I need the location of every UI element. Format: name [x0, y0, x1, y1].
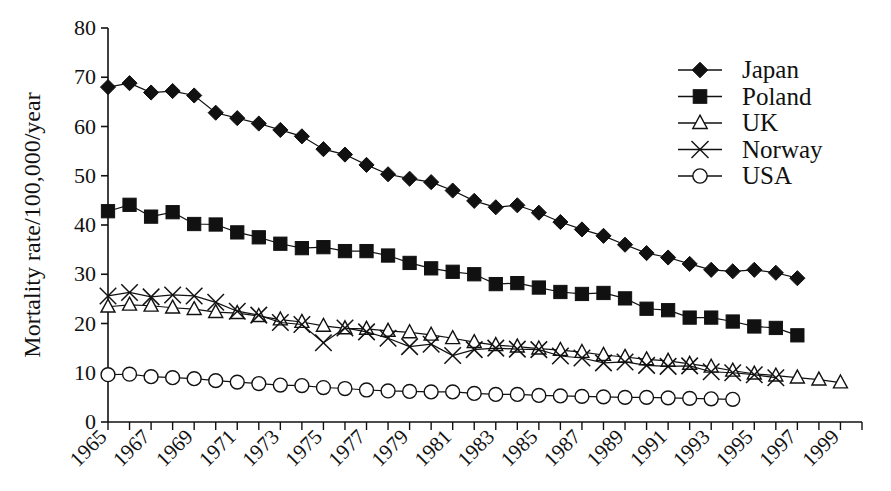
data-point-marker [360, 383, 374, 397]
y-tick-label: 80 [74, 15, 96, 40]
data-point-marker [209, 218, 222, 231]
data-point-marker [693, 90, 707, 104]
y-tick-label: 20 [74, 311, 96, 336]
data-point-marker [532, 388, 546, 402]
data-point-marker [166, 206, 179, 219]
data-point-marker [231, 226, 244, 239]
data-point-marker [274, 237, 287, 250]
data-point-marker [553, 389, 567, 403]
data-point-marker [554, 285, 567, 298]
data-point-marker [489, 387, 503, 401]
chart-canvas: 01020304050607080 1965196719691971197319… [0, 0, 891, 491]
legend-label: USA [742, 162, 792, 189]
data-point-marker [338, 244, 351, 257]
data-point-marker [640, 390, 654, 404]
y-tick-labels: 01020304050607080 [74, 15, 96, 434]
data-point-marker [425, 262, 438, 275]
data-point-marker [144, 370, 158, 384]
data-point-marker [726, 315, 739, 328]
data-point-marker [704, 392, 718, 406]
data-point-marker [209, 374, 223, 388]
data-point-marker [597, 390, 611, 404]
legend-label: Poland [742, 83, 812, 110]
data-point-marker [693, 169, 707, 183]
data-point-marker [661, 391, 675, 405]
y-tick-label: 60 [74, 114, 96, 139]
y-tick-label: 70 [74, 64, 96, 89]
data-point-marker [295, 379, 309, 393]
legend-label: Japan [742, 56, 799, 83]
y-axis-title-text: Mortality rate/100,000/year [19, 92, 45, 357]
legend-label: UK [742, 109, 778, 136]
data-point-marker [403, 256, 416, 269]
data-point-marker [791, 329, 804, 342]
data-point-marker [446, 265, 459, 278]
data-point-marker [424, 385, 438, 399]
data-point-marker [705, 311, 718, 324]
data-point-marker [511, 276, 524, 289]
legend-label: Norway [742, 136, 823, 163]
data-point-marker [661, 304, 674, 317]
y-tick-label: 10 [74, 360, 96, 385]
data-point-marker [446, 385, 460, 399]
data-point-marker [101, 205, 114, 218]
data-point-marker [316, 381, 330, 395]
data-point-marker [123, 198, 136, 211]
data-point-marker [618, 292, 631, 305]
data-point-marker [101, 368, 115, 382]
data-point-marker [532, 281, 545, 294]
data-point-marker [188, 217, 201, 230]
data-point-marker [468, 268, 481, 281]
data-point-marker [618, 390, 632, 404]
data-point-marker [726, 392, 740, 406]
data-point-marker [381, 249, 394, 262]
data-point-marker [360, 244, 373, 257]
data-point-marker [123, 367, 137, 381]
data-point-marker [575, 389, 589, 403]
data-point-marker [317, 241, 330, 254]
data-point-marker [575, 287, 588, 300]
data-point-marker [467, 387, 481, 401]
data-point-marker [510, 387, 524, 401]
y-tick-label: 50 [74, 163, 96, 188]
data-point-marker [683, 391, 697, 405]
data-point-marker [273, 378, 287, 392]
data-point-marker [144, 210, 157, 223]
y-tick-label: 40 [74, 212, 96, 237]
data-point-marker [230, 375, 244, 389]
data-point-marker [597, 286, 610, 299]
data-point-marker [295, 242, 308, 255]
data-point-marker [748, 320, 761, 333]
data-point-marker [489, 277, 502, 290]
data-point-marker [403, 385, 417, 399]
chart-figure: 01020304050607080 1965196719691971197319… [0, 0, 891, 491]
y-tick-label: 30 [74, 261, 96, 286]
data-point-marker [252, 231, 265, 244]
data-point-marker [166, 371, 180, 385]
data-point-marker [252, 377, 266, 391]
y-axis-title: Mortality rate/100,000/year [19, 92, 45, 357]
data-point-marker [187, 372, 201, 386]
data-point-marker [381, 384, 395, 398]
data-point-marker [683, 311, 696, 324]
data-point-marker [640, 302, 653, 315]
data-point-marker [769, 321, 782, 334]
data-point-marker [338, 382, 352, 396]
